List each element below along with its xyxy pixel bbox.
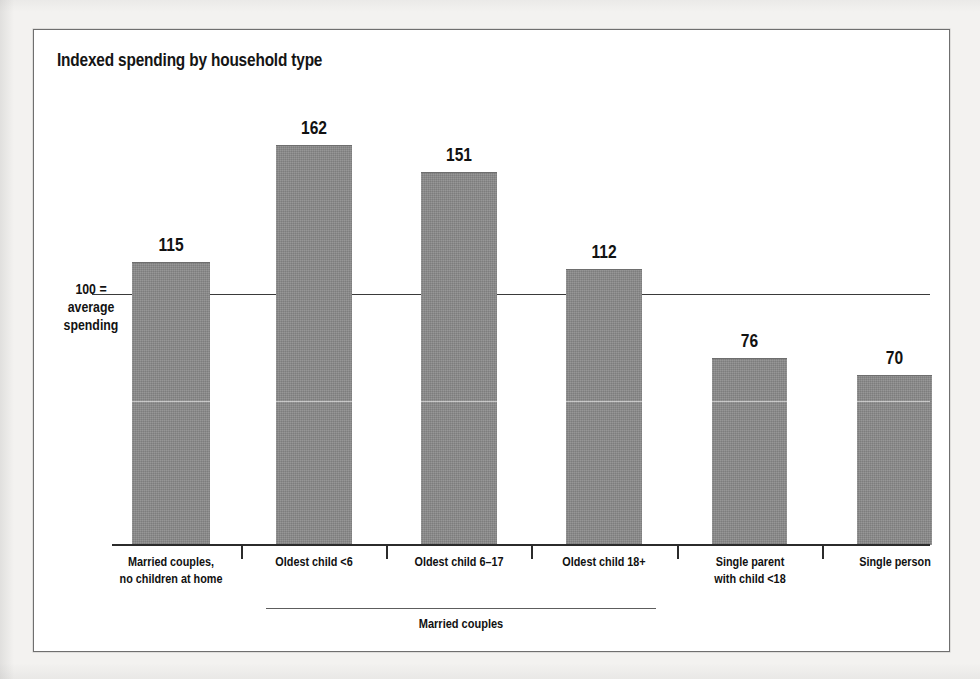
bar-value-label: 151 bbox=[428, 144, 490, 166]
category-label-oldest-child-under-6: Oldest child <6 bbox=[250, 554, 379, 571]
category-label-line1: Married couples, bbox=[107, 554, 236, 571]
chart-frame: Indexed spending by household type 100 =… bbox=[33, 29, 950, 652]
bar-value-label: 162 bbox=[283, 117, 345, 139]
bar-married-couples-no-children[interactable] bbox=[132, 262, 210, 545]
category-label-line1: Single person bbox=[831, 554, 960, 571]
bar-oldest-child-18-plus[interactable] bbox=[566, 269, 642, 545]
axis-tick bbox=[531, 546, 533, 559]
bar-single-parent-with-child[interactable] bbox=[712, 358, 787, 545]
bar-oldest-child-6-17[interactable] bbox=[421, 172, 497, 545]
bar-value-label: 115 bbox=[139, 234, 203, 256]
bar-oldest-child-under-6[interactable] bbox=[276, 145, 352, 545]
axis-tick bbox=[241, 546, 243, 559]
category-label-oldest-child-18-plus: Oldest child 18+ bbox=[540, 554, 669, 571]
bar-value-label: 70 bbox=[864, 347, 926, 369]
reference-line-100 bbox=[92, 294, 930, 295]
category-label-married-couples-no-children: Married couples, no children at home bbox=[107, 554, 236, 588]
reference-label-line1: 100 = bbox=[75, 281, 106, 297]
category-label-line1: Oldest child 18+ bbox=[540, 554, 669, 571]
reference-label-line3: spending bbox=[64, 317, 119, 333]
category-label-line2: no children at home bbox=[107, 571, 236, 588]
axis-tick bbox=[822, 546, 824, 559]
category-label-single-parent: Single parent with child <18 bbox=[686, 554, 815, 588]
category-label-oldest-child-6-17: Oldest child 6–17 bbox=[395, 554, 524, 571]
category-label-single-person: Single person bbox=[831, 554, 960, 571]
category-label-line2: with child <18 bbox=[686, 571, 815, 588]
bar-single-person[interactable] bbox=[857, 375, 932, 545]
reference-line-label: 100 = average spending bbox=[54, 280, 127, 334]
reference-label-line2: average bbox=[68, 299, 115, 315]
category-label-line1: Oldest child <6 bbox=[250, 554, 379, 571]
group-bracket-rule bbox=[266, 608, 656, 609]
category-label-line1: Single parent bbox=[686, 554, 815, 571]
scan-artifact-line bbox=[112, 401, 930, 402]
axis-tick bbox=[677, 546, 679, 559]
category-axis-line bbox=[112, 544, 930, 546]
bar-value-label: 76 bbox=[719, 330, 781, 352]
category-label-line1: Oldest child 6–17 bbox=[395, 554, 524, 571]
axis-tick bbox=[386, 546, 388, 559]
bar-value-label: 112 bbox=[573, 241, 635, 263]
plot-area: 100 = average spending 115 162 151 112 7… bbox=[34, 30, 949, 651]
page-canvas: Indexed spending by household type 100 =… bbox=[0, 0, 980, 679]
group-bracket-label: Married couples bbox=[293, 616, 628, 631]
